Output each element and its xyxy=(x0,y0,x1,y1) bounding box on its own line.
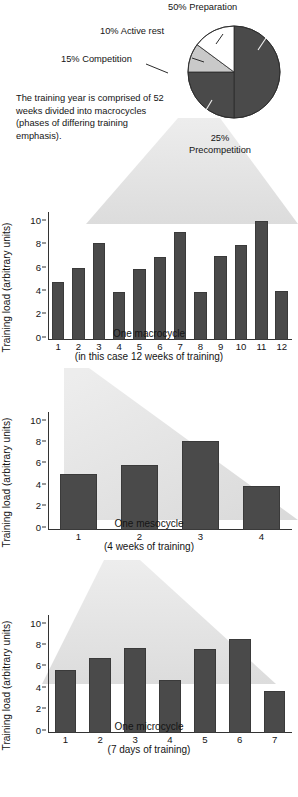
pie-label-active-rest: 10% Active rest xyxy=(100,26,164,38)
x-axis-label-microcycle: One microcycle (7 days of training) xyxy=(2,710,296,768)
pie-slice-preparation xyxy=(234,26,280,118)
pie-label-precompetition-name: Precompetition xyxy=(185,145,255,157)
x-axis-label-mesocycle: One mesocycle (4 weeks of training) xyxy=(2,507,296,565)
chart-macrocycle: Training load (arbitrary units) 10 8 6 4… xyxy=(2,212,296,362)
pie-slice-precompetition xyxy=(188,72,234,118)
pie-chart-training-year xyxy=(186,24,282,120)
chart-mesocycle: Training load (arbitrary units) 10 8 6 4… xyxy=(2,412,296,552)
intro-paragraph: The training year is comprised of 52 wee… xyxy=(16,92,166,142)
pie-label-competition: 15% Competition xyxy=(61,54,132,66)
pie-label-precompetition-wrap: 25% Precompetition xyxy=(145,133,295,159)
pie-label-precompetition-pct: 25% xyxy=(185,133,255,145)
training-cycles-figure: 50% Preparation 10% Active rest 15% Comp… xyxy=(0,0,298,797)
chart-microcycle: Training load (arbitrary units) 10 8 6 4… xyxy=(2,615,296,755)
x-axis-label-macrocycle: One macrocycle (in this case 12 weeks of… xyxy=(2,317,296,375)
pie-label-preparation: 50% Preparation xyxy=(168,2,237,14)
leader-competition-outer xyxy=(146,60,168,72)
